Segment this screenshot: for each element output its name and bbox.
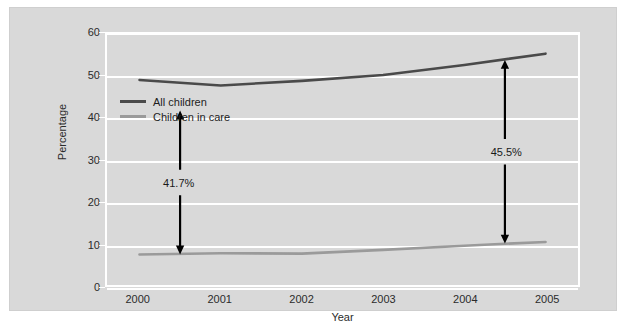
- annotation-arrow: [501, 165, 509, 244]
- y-axis-tick-label: 20: [66, 196, 100, 208]
- y-axis-tick-label: 50: [66, 69, 100, 81]
- y-axis-tick-label: 10: [66, 239, 100, 251]
- annotation-value-label: 41.7%: [163, 177, 194, 189]
- series-lines: [107, 34, 578, 285]
- legend-label: All children: [153, 96, 207, 108]
- legend-swatch-icon: [120, 115, 146, 118]
- y-axis-tick-label: 60: [66, 26, 100, 38]
- plot-area: [105, 32, 580, 287]
- x-axis-tick-label: 2004: [435, 293, 495, 305]
- y-axis-tick-mark: [99, 202, 105, 203]
- y-axis-tick-mark: [99, 32, 105, 33]
- y-axis-tick-label: 30: [66, 154, 100, 166]
- x-axis-tick-label: 2005: [517, 293, 577, 305]
- x-axis-tick-label: 2000: [108, 293, 168, 305]
- annotation-arrow: [501, 60, 509, 139]
- y-axis-tick-mark: [99, 245, 105, 246]
- x-axis-title: Year: [105, 311, 580, 323]
- annotation-arrow: [176, 195, 184, 254]
- y-axis-tick-label: 0: [66, 281, 100, 293]
- y-axis-tick-mark: [99, 287, 105, 288]
- y-axis-tick-mark: [99, 160, 105, 161]
- y-axis-tick-label: 40: [66, 111, 100, 123]
- y-axis-tick-mark: [99, 75, 105, 76]
- legend-label: Children in care: [153, 111, 230, 123]
- series-line: [139, 242, 545, 255]
- x-axis-tick-label: 2003: [353, 293, 413, 305]
- y-axis-tick-mark: [99, 117, 105, 118]
- legend-item: All children: [120, 94, 270, 109]
- x-axis-tick-labels: 200020012002200320042005: [105, 293, 580, 309]
- series-line: [139, 54, 545, 86]
- chart-legend: All childrenChildren in care: [120, 94, 270, 124]
- x-axis-tick-label: 2002: [272, 293, 332, 305]
- annotation-value-label: 45.5%: [491, 146, 522, 158]
- y-axis-title: Percentage: [56, 72, 68, 192]
- legend-item: Children in care: [120, 109, 270, 124]
- chart-panel: 0102030405060 Percentage All childrenChi…: [9, 7, 617, 311]
- chart-figure: 0102030405060 Percentage All childrenChi…: [0, 0, 626, 332]
- x-axis-tick-label: 2001: [190, 293, 250, 305]
- gridline: [107, 288, 578, 290]
- legend-swatch-icon: [120, 100, 146, 103]
